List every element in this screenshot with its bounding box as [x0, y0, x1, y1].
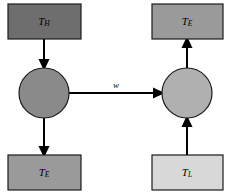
exhaust-right-subscript: E	[187, 19, 193, 28]
diagram-canvas: TH TE TE TL w	[0, 0, 235, 196]
work-edge-label: w	[113, 80, 119, 90]
reservoir-hot-subscript: H	[43, 19, 50, 28]
thermodynamic-cycle-diagram: TH TE TE TL w	[0, 0, 235, 196]
reservoir-cold-subscript: L	[187, 170, 192, 179]
engine-left-circle	[19, 68, 69, 118]
exhaust-left-subscript: E	[44, 170, 50, 179]
pump-right-circle	[162, 68, 212, 118]
